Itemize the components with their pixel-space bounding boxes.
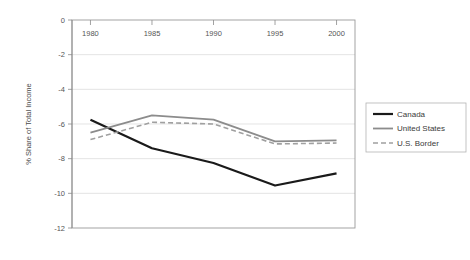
y-tick-label-0: 0 — [61, 16, 65, 25]
y-tick-label-3: -6 — [58, 120, 65, 129]
chart-container: 0-2-4-6-8-10-12 19801985199019952000 % S… — [0, 0, 470, 260]
x-tick-label-4: 2000 — [328, 29, 345, 38]
y-tick-label-4: -8 — [58, 154, 65, 163]
x-tick-label-1: 1985 — [144, 29, 161, 38]
legend-label-canada: Canada — [397, 110, 426, 119]
y-tick-label-6: -12 — [54, 224, 65, 233]
chart-legend: CanadaUnited StatesU.S. Border — [366, 103, 466, 152]
x-tick-label-3: 1995 — [267, 29, 284, 38]
y-axis-title: % Share of Total Income — [24, 83, 33, 165]
legend-label-u-s-border: U.S. Border — [397, 139, 439, 148]
legend-label-united-states: United States — [397, 124, 445, 133]
y-tick-label-2: -4 — [58, 85, 65, 94]
y-tick-label-1: -2 — [58, 50, 65, 59]
y-tick-label-5: -10 — [54, 189, 65, 198]
line-chart: 0-2-4-6-8-10-12 19801985199019952000 % S… — [0, 0, 470, 260]
x-tick-label-2: 1990 — [205, 29, 222, 38]
x-tick-label-0: 1980 — [82, 29, 99, 38]
